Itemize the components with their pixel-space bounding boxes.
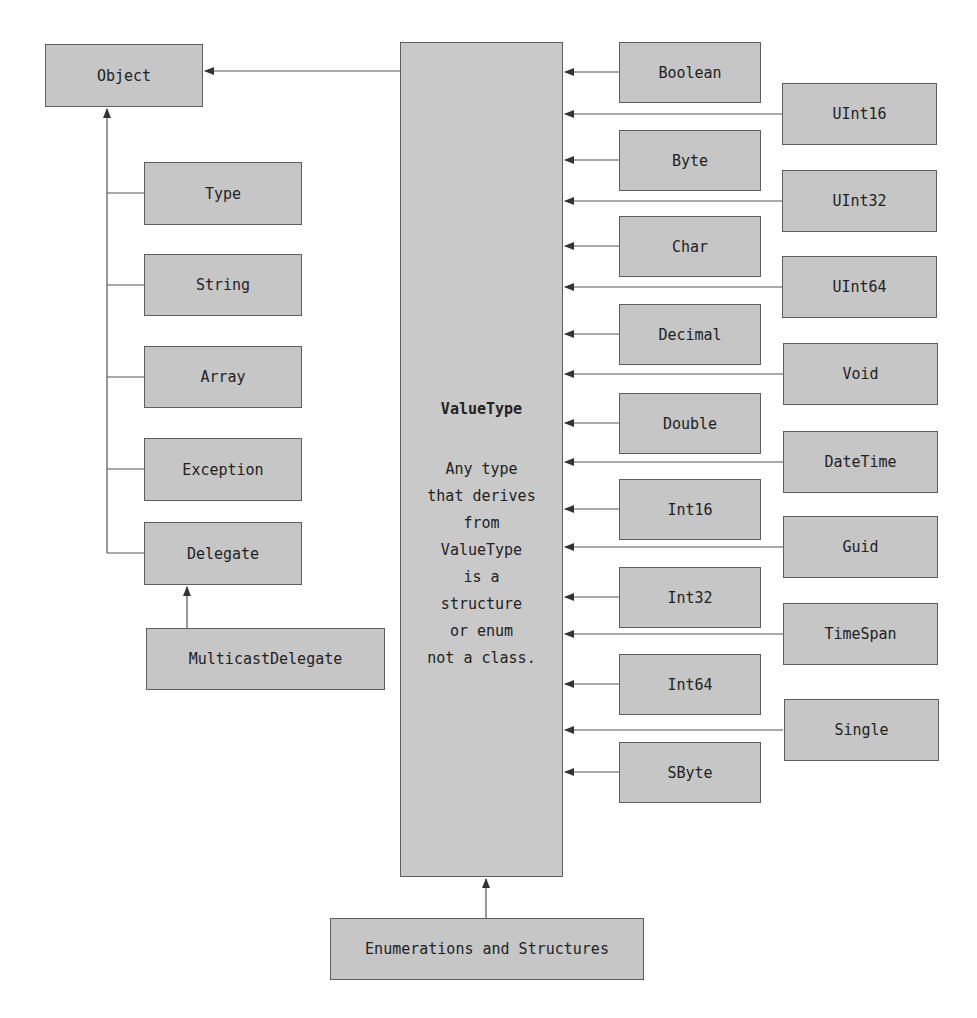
node-int64: Int64 <box>619 654 761 715</box>
node-exception: Exception <box>144 438 302 501</box>
node-label: SByte <box>667 764 712 782</box>
node-timespan: TimeSpan <box>783 603 938 665</box>
node-label: Void <box>842 365 878 383</box>
description-line: not a class. <box>401 645 562 672</box>
node-sbyte: SByte <box>619 742 761 803</box>
node-datetime: DateTime <box>783 431 938 493</box>
node-boolean: Boolean <box>619 42 761 103</box>
node-exception-label: Exception <box>182 461 263 479</box>
node-uint16: UInt16 <box>782 83 937 145</box>
node-string-label: String <box>196 276 250 294</box>
node-enumerations-structures: Enumerations and Structures <box>330 918 644 980</box>
node-type-label: Type <box>205 185 241 203</box>
node-byte: Byte <box>619 130 761 191</box>
node-value-type-title: ValueType <box>401 400 562 418</box>
node-label: Guid <box>842 538 878 556</box>
node-label: Int64 <box>667 676 712 694</box>
description-line: ValueType <box>401 537 562 564</box>
node-uint32: UInt32 <box>782 170 937 232</box>
node-value-type-description: Any type that derives from ValueType is … <box>401 456 562 672</box>
description-line: that derives <box>401 483 562 510</box>
node-double: Double <box>619 393 761 454</box>
node-object: Object <box>45 44 203 107</box>
node-multicast-delegate-label: MulticastDelegate <box>189 650 343 668</box>
node-int32: Int32 <box>619 567 761 628</box>
node-guid: Guid <box>783 516 938 578</box>
node-label: Char <box>672 238 708 256</box>
node-array-label: Array <box>200 368 245 386</box>
node-decimal: Decimal <box>619 304 761 365</box>
node-label: Single <box>834 721 888 739</box>
node-type: Type <box>144 162 302 225</box>
node-label: TimeSpan <box>824 625 896 643</box>
node-void: Void <box>783 343 938 405</box>
node-uint64: UInt64 <box>782 256 937 318</box>
node-label: Double <box>663 415 717 433</box>
description-line: from <box>401 510 562 537</box>
node-delegate: Delegate <box>144 522 302 585</box>
node-single: Single <box>784 699 939 761</box>
node-int16: Int16 <box>619 479 761 540</box>
node-string: String <box>144 254 302 316</box>
node-label: UInt64 <box>832 278 886 296</box>
node-enumerations-structures-label: Enumerations and Structures <box>365 940 609 958</box>
node-label: Int16 <box>667 501 712 519</box>
description-line: or enum <box>401 618 562 645</box>
node-label: Decimal <box>658 326 721 344</box>
type-hierarchy-diagram: Object Type String Array Exception Deleg… <box>0 0 977 1018</box>
node-label: DateTime <box>824 453 896 471</box>
description-line: structure <box>401 591 562 618</box>
node-multicast-delegate: MulticastDelegate <box>146 628 385 690</box>
description-line: Any type <box>401 456 562 483</box>
node-label: UInt16 <box>832 105 886 123</box>
node-label: Byte <box>672 152 708 170</box>
node-delegate-label: Delegate <box>187 545 259 563</box>
node-label: Int32 <box>667 589 712 607</box>
node-char: Char <box>619 216 761 277</box>
node-label: Boolean <box>658 64 721 82</box>
description-line: is a <box>401 564 562 591</box>
node-array: Array <box>144 346 302 408</box>
node-label: UInt32 <box>832 192 886 210</box>
node-object-label: Object <box>97 67 151 85</box>
node-value-type: ValueType Any type that derives from Val… <box>400 42 563 877</box>
